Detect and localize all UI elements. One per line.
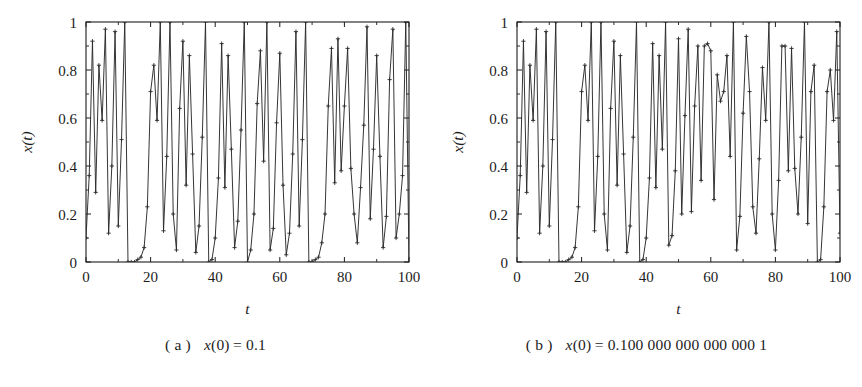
caption-b-argument: (0)	[573, 336, 592, 353]
x-axis-title: t	[245, 300, 250, 317]
x-tick-label: 40	[639, 269, 654, 285]
caption-b-equation: = 0.100 000 000 000 000 1	[595, 336, 768, 353]
plot-frame	[86, 22, 409, 262]
x-tick-label: 0	[82, 269, 90, 285]
series-line	[517, 22, 840, 262]
x-tick-label: 80	[768, 269, 783, 285]
y-tick-label: 1	[501, 15, 509, 31]
y-tick-label: 0.6	[489, 111, 508, 127]
x-tick-label: 100	[829, 269, 852, 285]
figure-container: 02040608010000.20.40.60.81tx(t) ( a )x(0…	[0, 0, 862, 387]
y-axis-title-group: x(t)	[18, 131, 36, 154]
caption-a-argument: (0)	[211, 336, 230, 353]
x-tick-label: 80	[337, 269, 352, 285]
y-axis-title: x(t)	[449, 131, 467, 154]
caption-b-variable: x	[566, 336, 573, 353]
y-tick-label: 1	[70, 15, 78, 31]
caption-a-variable: x	[204, 336, 211, 353]
series-group	[515, 20, 842, 264]
caption-a: ( a )x(0) = 0.1	[0, 336, 431, 354]
y-axis-title-group: x(t)	[449, 131, 467, 154]
x-tick-label: 0	[513, 269, 521, 285]
series-group	[84, 20, 411, 264]
panel-a: 02040608010000.20.40.60.81tx(t) ( a )x(0…	[0, 0, 431, 387]
x-tick-label: 60	[272, 269, 287, 285]
caption-a-label: ( a )	[165, 336, 191, 353]
caption-a-equation: = 0.1	[233, 336, 266, 353]
y-tick-label: 0.2	[489, 207, 508, 223]
series-line	[86, 22, 409, 262]
y-tick-label: 0.8	[489, 63, 508, 79]
y-tick-label: 0.4	[58, 159, 77, 175]
x-tick-label: 100	[398, 269, 421, 285]
x-tick-label: 20	[574, 269, 589, 285]
plot-b-svg: 02040608010000.20.40.60.81tx(t)	[431, 0, 862, 330]
y-tick-label: 0.6	[58, 111, 77, 127]
y-tick-label: 0.8	[58, 63, 77, 79]
x-tick-label: 20	[143, 269, 158, 285]
caption-b-label: ( b )	[526, 336, 553, 353]
y-tick-label: 0	[501, 255, 509, 271]
y-axis-title: x(t)	[18, 131, 36, 154]
y-tick-label: 0.4	[489, 159, 508, 175]
y-tick-label: 0	[70, 255, 78, 271]
x-tick-label: 40	[208, 269, 223, 285]
plot-a-svg: 02040608010000.20.40.60.81tx(t)	[0, 0, 431, 330]
x-tick-label: 60	[703, 269, 718, 285]
y-tick-label: 0.2	[58, 207, 77, 223]
caption-b: ( b )x(0) = 0.100 000 000 000 000 1	[431, 336, 862, 354]
x-axis-title: t	[676, 300, 681, 317]
panel-b: 02040608010000.20.40.60.81tx(t) ( b )x(0…	[431, 0, 862, 387]
